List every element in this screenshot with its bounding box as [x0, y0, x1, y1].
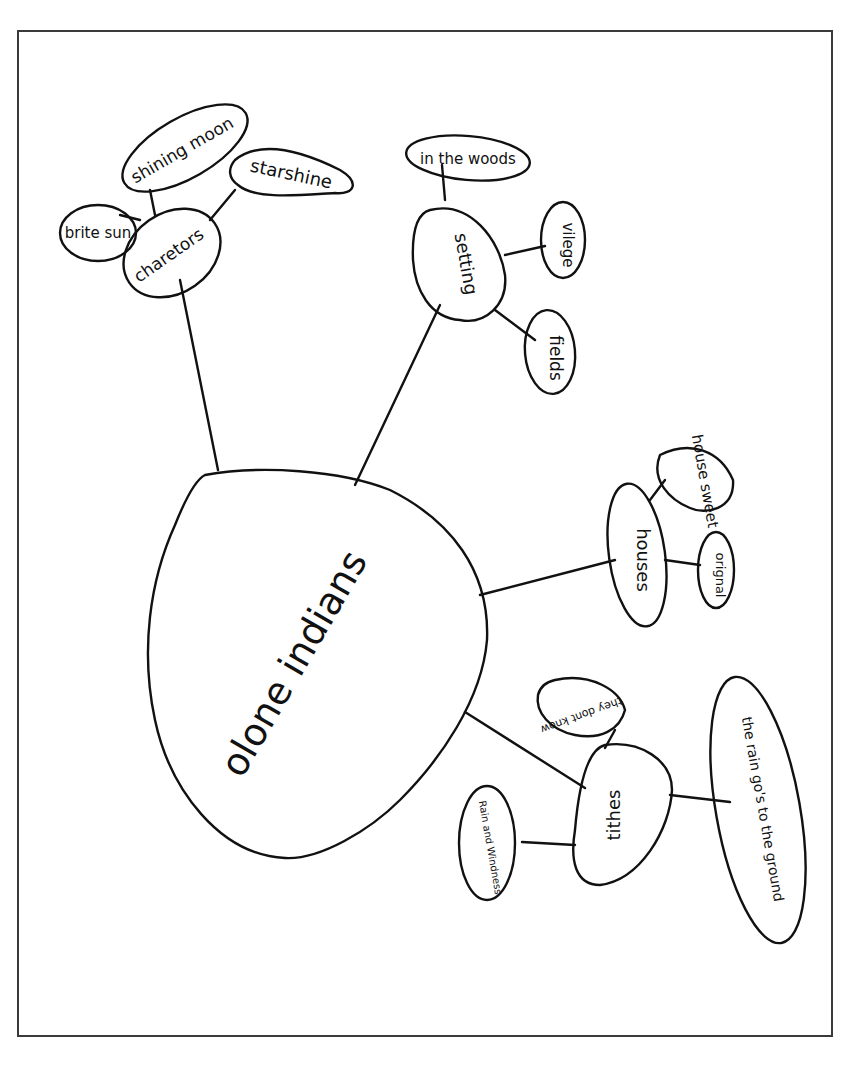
connector-houses	[480, 560, 615, 595]
node-setting: setting	[451, 231, 483, 296]
connector-house-sweet	[650, 480, 665, 500]
node-tithes: tithes	[603, 790, 624, 841]
connector-orignal	[665, 560, 700, 565]
connector-shining-moon	[150, 190, 155, 215]
node-rain-windness: Rain and Windness	[477, 800, 504, 896]
central-topic: olone indians	[211, 543, 376, 784]
connector-vilege	[505, 246, 545, 255]
node-shining-moon: shining moon	[127, 112, 237, 187]
node-fields: fields	[546, 335, 566, 381]
node-charetors: charetors	[130, 224, 208, 287]
connector-setting	[355, 305, 440, 485]
node-houses: houses	[633, 528, 654, 592]
connector-in-the-woods	[442, 165, 445, 200]
connector-starshine	[210, 190, 235, 220]
connector-rain-windness	[522, 842, 575, 845]
node-house-sweet: house sweet	[688, 433, 722, 529]
node-orignal: orignal	[713, 553, 728, 598]
connector-charetors	[180, 280, 218, 470]
node-brite-sun: brite sun	[65, 224, 132, 242]
connector-rain-ground	[670, 795, 730, 802]
node-vilege: vilege	[559, 222, 577, 267]
node-rain-ground: the rain go's to the ground	[739, 715, 787, 902]
mind-map: olone indians charetors brite sun shinin…	[0, 0, 858, 1069]
node-in-the-woods: in the woods	[420, 150, 516, 168]
